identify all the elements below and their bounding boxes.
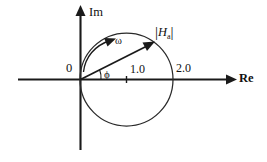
complex-plane-diagram: Im Re 0 1.0 2.0 ω ϕ |Ha| [0,0,267,162]
diagram-canvas [0,0,267,162]
magnitude-symbol: H [158,25,167,39]
magnitude-bar-right: | [171,24,174,40]
magnitude-label: |Ha| [155,25,174,41]
phasor-arrow-icon [143,42,156,52]
phi-label: ϕ [104,69,110,80]
origin-label: 0 [66,62,72,75]
arrow-up-icon [76,5,86,16]
arrow-right-icon [226,75,237,85]
imaginary-axis-label: Im [89,6,103,19]
real-axis-label: Re [239,72,254,85]
tick-label-1: 1.0 [130,63,145,75]
tick-label-2: 2.0 [176,62,191,74]
omega-label: ω [115,36,122,47]
phi-angle-arc [100,70,102,80]
